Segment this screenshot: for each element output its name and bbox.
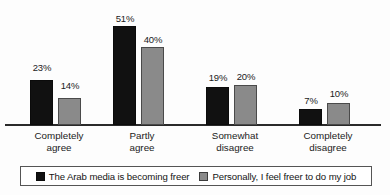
x-tick-label-completely-agree: Completely agree	[13, 130, 105, 153]
bar-series-a	[299, 109, 322, 125]
bar-series-b	[58, 98, 81, 125]
bar-value-label: 19%	[203, 72, 233, 83]
bar-value-label: 51%	[110, 13, 140, 24]
chart-legend: The Arab media is becoming freer Persona…	[20, 166, 372, 186]
x-tick-label-partly-agree: Partly agree	[96, 130, 188, 153]
bar-chart-figure: 23% 14% 51% 40% 19% 20% 7% 10% Completel…	[0, 0, 390, 195]
x-tick-label-somewhat-disagree: Somewhat disagree	[189, 130, 281, 153]
x-tick-label-completely-disagree: Completely disagree	[282, 130, 374, 153]
bar-value-label: 40%	[138, 34, 168, 45]
gray-square-swatch-icon	[199, 172, 208, 181]
legend-entry-series-a: The Arab media is becoming freer	[36, 171, 190, 182]
bar-value-label: 14%	[55, 80, 85, 91]
plot-area: 23% 14% 51% 40% 19% 20% 7% 10% Completel…	[0, 0, 390, 128]
legend-entry-series-b: Personally, I feel freer to do my job	[199, 171, 356, 182]
legend-label-series-b: Personally, I feel freer to do my job	[212, 171, 356, 182]
bar-series-a	[206, 87, 229, 125]
bar-series-a	[113, 26, 136, 125]
bar-value-label: 20%	[231, 71, 261, 82]
bar-series-b	[141, 47, 164, 125]
bar-series-b	[327, 103, 350, 125]
legend-label-series-a: The Arab media is becoming freer	[49, 171, 190, 182]
bar-series-a	[30, 80, 53, 125]
bar-value-label: 10%	[324, 88, 354, 99]
bar-value-label: 23%	[27, 62, 57, 73]
black-square-swatch-icon	[36, 172, 45, 181]
bar-series-b	[234, 85, 257, 125]
bar-value-label: 7%	[296, 95, 326, 106]
